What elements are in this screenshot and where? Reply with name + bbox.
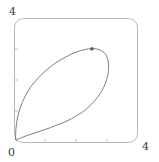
x-axis-max-label: 4	[142, 141, 149, 152]
curve-point-marker	[90, 47, 93, 50]
plot-container: 4 0 4	[0, 0, 159, 162]
parametric-plot-graphic	[0, 0, 159, 162]
origin-label: 0	[8, 147, 15, 158]
plot-frame	[15, 19, 138, 143]
y-axis-max-label: 4	[9, 6, 16, 17]
